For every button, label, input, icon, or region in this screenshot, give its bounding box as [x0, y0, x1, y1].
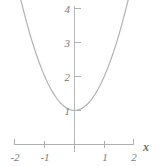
x-tick-label-1: 1 — [102, 152, 108, 163]
parabola-figure: 4 3 2 1 -2 -1 1 2 x — [0, 0, 161, 166]
x-axis-title: x — [143, 141, 149, 153]
y-tick-label-4: 4 — [65, 4, 71, 15]
y-axis-ticks — [74, 9, 81, 111]
x-tick-label--2: -2 — [10, 152, 19, 163]
y-tick-label-1: 1 — [65, 106, 71, 117]
y-tick-label-2: 2 — [65, 72, 71, 83]
x-tick-label-2: 2 — [131, 152, 137, 163]
x-tick-label--1: -1 — [40, 152, 49, 163]
y-tick-label-3: 3 — [65, 38, 71, 49]
plot-area — [0, 0, 161, 166]
